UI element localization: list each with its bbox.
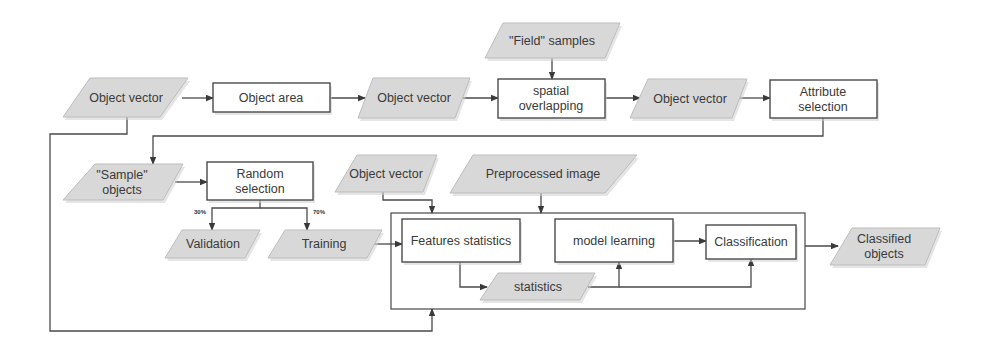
- node-label: objects: [864, 247, 904, 261]
- node-obj-area: Object area: [213, 83, 332, 115]
- node-label: objects: [102, 183, 142, 197]
- edge-obj-vec-4-to-container-top: [383, 192, 432, 213]
- node-label: Random: [236, 167, 283, 181]
- node-label: Object vector: [89, 91, 163, 105]
- node-field-samples: "Field" samples: [485, 23, 622, 61]
- node-label: "Field" samples: [509, 34, 595, 48]
- node-statistics: statistics: [480, 273, 597, 303]
- flow-diagram: Object vectorObject areaObject vector"Fi…: [0, 0, 994, 351]
- edge-labels: 30%70%: [194, 209, 326, 215]
- node-label: Object vector: [349, 167, 423, 181]
- node-features-stats: Features statistics: [402, 219, 522, 265]
- node-validation: Validation: [165, 230, 262, 261]
- node-label: selection: [235, 182, 284, 196]
- node-label: Classification: [714, 235, 788, 249]
- node-label: Classified: [857, 232, 911, 246]
- node-label: Preprocessed image: [486, 167, 601, 181]
- node-label: Training: [302, 237, 347, 251]
- node-model-learning: model learning: [555, 219, 675, 265]
- node-label: Object vector: [377, 91, 451, 105]
- split-percentage-label: 30%: [194, 209, 207, 215]
- node-label: overlapping: [519, 99, 584, 113]
- node-label: Validation: [186, 237, 240, 251]
- node-classified-objects: Classifiedobjects: [830, 228, 942, 268]
- node-label: Object area: [239, 91, 304, 105]
- node-label: statistics: [514, 280, 562, 294]
- node-obj-vec-2: Object vector: [358, 78, 472, 121]
- node-label: "Sample": [96, 168, 147, 182]
- node-classification: Classification: [706, 225, 798, 262]
- edge-random-select-to-training: [260, 208, 307, 230]
- node-label: Attribute: [800, 85, 847, 99]
- node-attr-select: Attributeselection: [770, 80, 879, 121]
- edge-random-select-to-validation: [212, 200, 260, 230]
- node-obj-vec-4: Object vector: [335, 155, 439, 195]
- edge-obj-vec-1-to-container-bottom: [50, 117, 432, 331]
- node-label: spatial: [533, 84, 569, 98]
- split-percentage-label: 70%: [313, 209, 326, 215]
- node-spatial-overlap: spatialoverlapping: [498, 79, 607, 121]
- node-preproc-image: Preprocessed image: [450, 155, 639, 196]
- node-obj-vec-3: Object vector: [630, 79, 749, 121]
- node-sample-objects: "Sample"objects: [63, 164, 185, 203]
- node-label: model learning: [573, 234, 655, 248]
- node-label: Object vector: [653, 92, 727, 106]
- node-label: Features statistics: [411, 234, 512, 248]
- node-obj-vec-1: Object vector: [63, 78, 190, 120]
- node-random-select: Randomselection: [207, 162, 315, 203]
- edge-features-stats-to-statistics: [460, 262, 487, 287]
- node-label: selection: [798, 100, 847, 114]
- nodes: Object vectorObject areaObject vector"Fi…: [63, 23, 942, 303]
- node-training: Training: [268, 230, 384, 261]
